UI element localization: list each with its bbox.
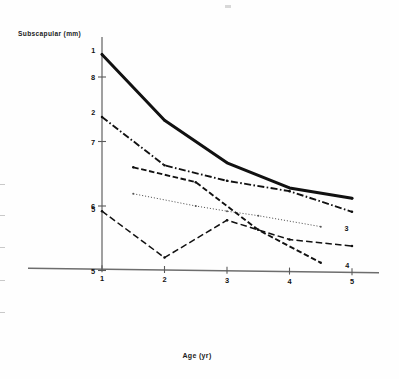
data-point (320, 262, 323, 265)
x-axis-line (28, 268, 379, 272)
line-chart-plot (0, 0, 399, 379)
y-axis-title: Subscapular (mm) (18, 30, 81, 37)
data-point (226, 210, 228, 212)
series-line-1 (102, 54, 352, 198)
data-point (163, 164, 166, 167)
figure-canvas: Subscapular (mm) Age (yr) 567812345 1253… (0, 0, 399, 379)
y-tick-label: 7 (91, 137, 95, 146)
series-line-5 (102, 211, 352, 257)
data-point (163, 119, 166, 122)
series-label-5: 5 (91, 205, 95, 214)
data-point (288, 187, 291, 190)
x-tick-label: 3 (225, 276, 229, 285)
series-end-label-3: 3 (345, 223, 349, 232)
data-point (132, 193, 134, 195)
data-point (101, 53, 104, 56)
series-lines (101, 53, 354, 264)
data-point (320, 226, 322, 228)
series-end-label-4: 4 (345, 260, 349, 269)
x-tick-label: 1 (100, 274, 104, 283)
data-point (257, 215, 259, 217)
x-tick-label: 2 (162, 275, 166, 284)
data-point (101, 116, 104, 119)
data-point (226, 162, 229, 165)
x-tick-label: 4 (287, 277, 291, 286)
data-point (351, 197, 354, 200)
data-point (288, 190, 291, 193)
data-point (101, 210, 104, 213)
data-point (226, 219, 229, 222)
y-tick-label: 5 (91, 266, 95, 275)
axes (28, 37, 379, 275)
data-point (351, 245, 354, 248)
data-point (195, 205, 197, 207)
data-point (195, 181, 198, 184)
data-point (163, 256, 166, 259)
data-point (288, 238, 291, 241)
data-point (226, 180, 229, 183)
y-tick-label: 8 (91, 73, 95, 82)
data-point (351, 211, 354, 214)
x-axis-title: Age (yr) (182, 352, 211, 359)
x-tick-label: 5 (350, 277, 354, 286)
data-point (132, 166, 135, 169)
series-label-1: 1 (91, 45, 95, 54)
series-label-2: 2 (91, 108, 95, 117)
